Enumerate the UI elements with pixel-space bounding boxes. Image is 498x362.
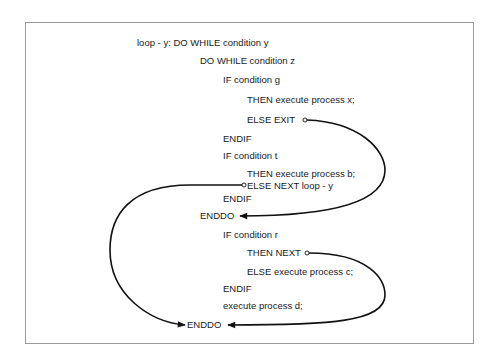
line-enddo-outer: ENDDO — [187, 319, 221, 331]
line-else-next-loop-y: ELSE NEXT loop - y — [247, 180, 333, 192]
line-endif-1: ENDIF — [223, 133, 252, 145]
line-endif-3: ENDIF — [223, 283, 252, 295]
line-then-process-b: THEN execute process b; — [247, 168, 355, 180]
line-if-condition-g: IF condition g — [223, 74, 280, 86]
line-endif-2: ENDIF — [223, 193, 252, 205]
line-then-next: THEN NEXT — [247, 247, 301, 259]
line-if-condition-t: IF condition t — [223, 150, 277, 162]
line-execute-process-d: execute process d; — [223, 300, 303, 312]
line-then-process-x: THEN execute process x; — [247, 94, 355, 106]
line-loop-y-do-while: loop - y: DO WHILE condition y — [137, 37, 268, 49]
line-else-exit: ELSE EXIT — [247, 114, 295, 126]
line-do-while-z: DO WHILE condition z — [200, 55, 295, 67]
line-else-process-c: ELSE execute process c; — [247, 266, 353, 278]
line-enddo-inner: ENDDO — [200, 210, 234, 222]
line-if-condition-r: IF condition r — [223, 229, 278, 241]
